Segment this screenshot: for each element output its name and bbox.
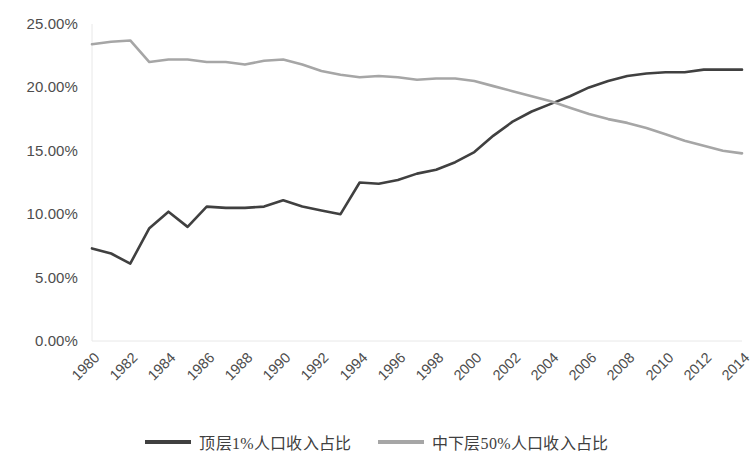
income-share-line-chart: 25.00%20.00%15.00%10.00%5.00%0.00% 19801… bbox=[0, 0, 754, 460]
legend-line-swatch-icon bbox=[378, 440, 424, 444]
plot-area bbox=[0, 0, 754, 460]
axis-lines bbox=[92, 24, 742, 341]
chart-legend: 顶层1%人口收入占比中下层50%人口收入占比 bbox=[0, 430, 754, 454]
legend-item-label: 顶层1%人口收入占比 bbox=[199, 430, 351, 454]
series-line-2 bbox=[92, 40, 742, 153]
series-line-1 bbox=[92, 70, 742, 264]
legend-item[interactable]: 顶层1%人口收入占比 bbox=[145, 430, 351, 454]
data-series-layer bbox=[92, 40, 742, 263]
legend-item[interactable]: 中下层50%人口收入占比 bbox=[378, 430, 609, 454]
legend-line-swatch-icon bbox=[145, 440, 191, 444]
legend-item-label: 中下层50%人口收入占比 bbox=[432, 430, 609, 454]
